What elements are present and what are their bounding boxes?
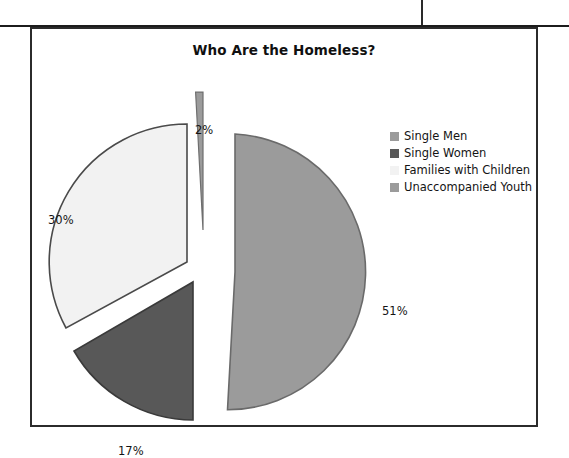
legend-label-single-women: Single Women bbox=[404, 147, 486, 160]
chart-frame: Who Are the Homeless? 51% 30% 17% 2% bbox=[30, 27, 538, 427]
legend-swatch-icon-single-men bbox=[390, 132, 399, 141]
pie-chart-svg bbox=[32, 55, 392, 427]
legend-item-single-men[interactable]: Single Men bbox=[390, 128, 540, 144]
pie-chart-plot-area: 51% 30% 17% 2% bbox=[32, 55, 392, 427]
legend-swatch-icon-unaccompanied-youth bbox=[390, 183, 399, 192]
legend-label-unaccompanied-youth: Unaccompanied Youth bbox=[404, 181, 532, 194]
pie-slice-youth-path[interactable] bbox=[196, 92, 203, 230]
page-top-tick-mark bbox=[421, 0, 423, 25]
pie-slice-single-men-path[interactable] bbox=[228, 134, 366, 410]
legend-label-families-with-children: Families with Children bbox=[404, 164, 530, 177]
legend-label-single-men: Single Men bbox=[404, 130, 467, 143]
legend-swatch-icon-single-women bbox=[390, 149, 399, 158]
legend-item-unaccompanied-youth[interactable]: Unaccompanied Youth bbox=[390, 179, 540, 195]
legend-swatch-icon-families-with-children bbox=[390, 166, 399, 175]
pie-label-single-women: 17% bbox=[118, 444, 144, 458]
legend-item-families-with-children[interactable]: Families with Children bbox=[390, 162, 540, 178]
pie-slice-unaccompanied-youth[interactable] bbox=[196, 92, 203, 230]
pie-label-families-with-children: 30% bbox=[48, 213, 74, 227]
legend-item-single-women[interactable]: Single Women bbox=[390, 145, 540, 161]
chart-legend: Single Men Single Women Families with Ch… bbox=[390, 128, 540, 196]
pie-slice-single-men[interactable] bbox=[228, 134, 366, 410]
pie-label-single-men: 51% bbox=[382, 304, 408, 318]
pie-label-unaccompanied-youth: 2% bbox=[195, 123, 213, 137]
